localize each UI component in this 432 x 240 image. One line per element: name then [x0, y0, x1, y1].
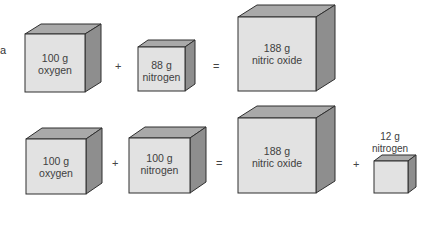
cube-leftover-nitrogen [374, 155, 422, 197]
cube-mass: 188 g [238, 42, 316, 54]
cube-mass: 12 g [364, 131, 416, 143]
cube-substance: oxygen [25, 64, 85, 76]
cube-mass: 188 g [238, 145, 316, 157]
plus-operator: + [112, 157, 118, 169]
cube-substance: nitric oxide [238, 157, 316, 169]
plus-operator: + [353, 158, 359, 170]
cube-mass: 100 g [129, 152, 190, 164]
part-label: a [0, 44, 6, 56]
cube-label-leftover-nitrogen: 12 g nitrogen [364, 131, 416, 155]
cube-label-nitric-oxide-row2: 188 g nitric oxide [238, 145, 316, 169]
cube-substance: oxygen [26, 167, 86, 179]
equals-operator: = [216, 157, 222, 169]
cube-label-oxygen-row1: 100 g oxygen [25, 52, 85, 76]
cube-label-oxygen-row2: 100 g oxygen [26, 155, 86, 179]
cube-substance: nitrogen [129, 164, 190, 176]
cube-substance: nitrogen [138, 71, 185, 83]
plus-operator: + [115, 60, 121, 72]
cube-mass: 100 g [25, 52, 85, 64]
cube-substance: nitric oxide [238, 54, 316, 66]
cube-label-nitrogen-row1: 88 g nitrogen [138, 59, 185, 83]
cube-mass: 88 g [138, 59, 185, 71]
cube-label-nitric-oxide-row1: 188 g nitric oxide [238, 42, 316, 66]
cube-substance: nitrogen [364, 143, 416, 155]
equals-operator: = [213, 60, 219, 72]
cube-label-nitrogen-row2: 100 g nitrogen [129, 152, 190, 176]
cube-mass: 100 g [26, 155, 86, 167]
